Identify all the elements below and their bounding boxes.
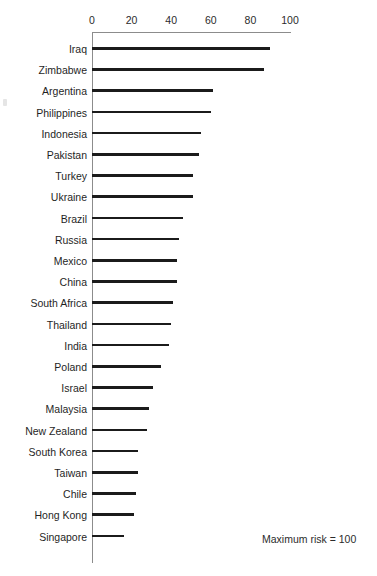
category-label-ukraine: Ukraine bbox=[51, 191, 87, 203]
plot-area: 020406080100 IraqZimbabweArgentinaPhilip… bbox=[0, 0, 377, 576]
category-label-brazil: Brazil bbox=[61, 213, 87, 225]
chart-row: Pakistan bbox=[0, 149, 377, 170]
bar-china bbox=[92, 280, 177, 283]
chart-row: Brazil bbox=[0, 213, 377, 234]
bar-israel bbox=[92, 386, 153, 389]
category-label-iraq: Iraq bbox=[69, 43, 87, 55]
chart-row: Russia bbox=[0, 234, 377, 255]
category-label-poland: Poland bbox=[54, 361, 87, 373]
category-label-new-zealand: New Zealand bbox=[25, 425, 87, 437]
bar-turkey bbox=[92, 174, 193, 177]
chart-row: Taiwan bbox=[0, 467, 377, 488]
bar-thailand bbox=[92, 323, 171, 326]
bar-taiwan bbox=[92, 471, 138, 474]
category-label-india: India bbox=[64, 340, 87, 352]
bar-south-korea bbox=[92, 450, 138, 453]
chart-row: Thailand bbox=[0, 319, 377, 340]
max-risk-annotation: Maximum risk = 100 bbox=[262, 533, 356, 545]
category-label-china: China bbox=[60, 276, 87, 288]
bar-malaysia bbox=[92, 407, 149, 410]
bar-chile bbox=[92, 492, 136, 495]
category-label-israel: Israel bbox=[61, 382, 87, 394]
bar-argentina bbox=[92, 89, 213, 92]
bar-ukraine bbox=[92, 195, 193, 198]
bar-pakistan bbox=[92, 153, 199, 156]
category-label-turkey: Turkey bbox=[55, 170, 87, 182]
category-label-thailand: Thailand bbox=[47, 319, 87, 331]
x-axis-line bbox=[92, 32, 291, 33]
bar-india bbox=[92, 344, 169, 347]
bar-mexico bbox=[92, 259, 177, 262]
category-label-mexico: Mexico bbox=[54, 255, 87, 267]
bar-iraq bbox=[92, 47, 270, 50]
category-label-indonesia: Indonesia bbox=[41, 128, 87, 140]
chart-row: Malaysia bbox=[0, 403, 377, 424]
chart-row: Turkey bbox=[0, 170, 377, 191]
bar-russia bbox=[92, 238, 179, 241]
scan-artifact bbox=[3, 99, 7, 106]
bar-brazil bbox=[92, 217, 183, 220]
category-label-philippines: Philippines bbox=[36, 107, 87, 119]
category-label-russia: Russia bbox=[55, 234, 87, 246]
chart-row: Iraq bbox=[0, 43, 377, 64]
bar-south-africa bbox=[92, 301, 173, 304]
bar-hong-kong bbox=[92, 513, 134, 516]
x-tick-20: 20 bbox=[126, 14, 138, 26]
x-tick-0: 0 bbox=[89, 14, 95, 26]
category-label-taiwan: Taiwan bbox=[54, 467, 87, 479]
chart-row: Indonesia bbox=[0, 128, 377, 149]
chart-row: Philippines bbox=[0, 107, 377, 128]
category-label-malaysia: Malaysia bbox=[46, 403, 87, 415]
category-label-south-africa: South Africa bbox=[30, 297, 87, 309]
chart-row: South Africa bbox=[0, 297, 377, 318]
chart-row: Hong Kong bbox=[0, 509, 377, 530]
chart-row: Argentina bbox=[0, 85, 377, 106]
chart-row: India bbox=[0, 340, 377, 361]
chart-row: Poland bbox=[0, 361, 377, 382]
risk-chart: 020406080100 IraqZimbabweArgentinaPhilip… bbox=[0, 0, 377, 576]
chart-row: New Zealand bbox=[0, 425, 377, 446]
chart-row: Ukraine bbox=[0, 191, 377, 212]
x-tick-60: 60 bbox=[205, 14, 217, 26]
chart-row: Mexico bbox=[0, 255, 377, 276]
bar-new-zealand bbox=[92, 429, 147, 432]
x-tick-40: 40 bbox=[165, 14, 177, 26]
category-label-hong-kong: Hong Kong bbox=[34, 509, 87, 521]
bar-indonesia bbox=[92, 132, 201, 135]
chart-row: South Korea bbox=[0, 446, 377, 467]
chart-row: China bbox=[0, 276, 377, 297]
category-label-south-korea: South Korea bbox=[29, 446, 87, 458]
category-label-chile: Chile bbox=[63, 488, 87, 500]
bar-zimbabwe bbox=[92, 68, 264, 71]
chart-row: Israel bbox=[0, 382, 377, 403]
bar-poland bbox=[92, 365, 161, 368]
category-label-zimbabwe: Zimbabwe bbox=[39, 64, 87, 76]
chart-row: Chile bbox=[0, 488, 377, 509]
bar-philippines bbox=[92, 111, 211, 114]
category-label-singapore: Singapore bbox=[39, 531, 87, 543]
x-tick-100: 100 bbox=[281, 14, 299, 26]
chart-row: Zimbabwe bbox=[0, 64, 377, 85]
bar-singapore bbox=[92, 535, 124, 538]
category-label-pakistan: Pakistan bbox=[47, 149, 87, 161]
category-label-argentina: Argentina bbox=[42, 85, 87, 97]
x-tick-80: 80 bbox=[245, 14, 257, 26]
